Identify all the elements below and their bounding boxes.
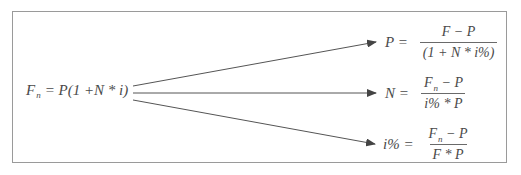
n-formula-fraction: Fn − P i% * P — [421, 75, 466, 112]
n-formula-numerator: Fn − P — [421, 75, 466, 93]
i-formula-lhs: i% = — [383, 136, 414, 153]
p-formula-denominator: (1 + N * i%) — [420, 42, 498, 61]
n-num-sub: n — [433, 83, 438, 93]
n-formula-denominator: i% * P — [421, 93, 465, 112]
p-formula-numerator: F − P — [439, 24, 479, 42]
arrow-to-p-formula — [133, 42, 376, 86]
p-formula: P = F − P (1 + N * i%) — [385, 24, 497, 61]
n-num-rest: − P — [438, 75, 463, 90]
i-num-rest: − P — [443, 126, 468, 141]
source-lhs-sub: n — [36, 90, 41, 100]
source-rhs: = P(1 +N * i) — [45, 82, 129, 99]
i-formula-denominator: F * P — [430, 144, 467, 163]
i-formula-fraction: Fn − P F * P — [426, 126, 471, 163]
p-formula-fraction: F − P (1 + N * i%) — [420, 24, 498, 61]
i-formula: i% = Fn − P F * P — [383, 126, 471, 163]
n-formula-lhs: N = — [385, 85, 409, 102]
source-lhs-var: F — [26, 82, 35, 99]
source-formula: Fn = P(1 +N * i) — [26, 82, 128, 99]
i-formula-numerator: Fn − P — [426, 126, 471, 144]
arrow-to-i-formula — [133, 100, 375, 144]
i-num-sub: n — [438, 134, 443, 144]
i-num-var: F — [429, 126, 438, 141]
n-formula: N = Fn − P i% * P — [385, 75, 466, 112]
n-num-var: F — [424, 75, 433, 90]
p-formula-lhs: P = — [385, 34, 408, 51]
